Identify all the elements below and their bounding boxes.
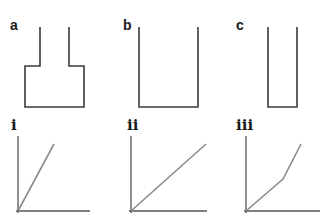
diagram-canvas — [0, 0, 320, 220]
plot-line — [18, 144, 54, 211]
graph-ii — [129, 136, 207, 213]
graph-iii — [244, 136, 320, 213]
plot-line — [246, 144, 301, 211]
plot-line — [131, 144, 206, 211]
graph-i — [16, 136, 90, 213]
container-a — [25, 27, 84, 107]
container-b — [139, 27, 198, 107]
container-c — [268, 27, 297, 107]
